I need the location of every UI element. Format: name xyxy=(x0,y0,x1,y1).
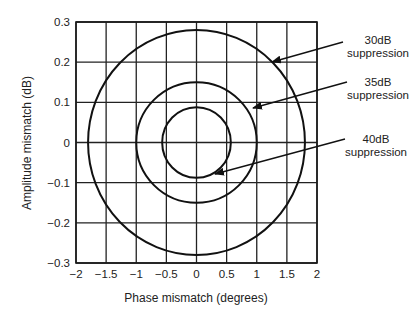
x-tick-label: −1.5 xyxy=(95,268,118,280)
x-tick-label: −0.5 xyxy=(155,268,178,280)
x-tick-labels: −2−1.5−1−0.500.511.52 xyxy=(69,268,320,280)
y-tick-label: −0.3 xyxy=(47,257,70,269)
annotation-40db-value: 40dB xyxy=(363,133,390,145)
x-tick-label: −1 xyxy=(130,268,143,280)
y-tick-label: 0 xyxy=(64,137,70,149)
y-tick-label: −0.1 xyxy=(47,177,70,189)
grid-lines xyxy=(76,22,317,263)
x-tick-label: 1.5 xyxy=(279,268,295,280)
x-axis-title: Phase mismatch (degrees) xyxy=(124,291,267,305)
x-tick-label: 2 xyxy=(314,268,320,280)
arrow-40db xyxy=(215,139,345,174)
chart: −2−1.5−1−0.500.511.52 0.30.20.10−0.1−0.2… xyxy=(0,0,419,325)
annotation-40db-label: suppression xyxy=(345,146,407,158)
x-tick-label: −2 xyxy=(69,268,82,280)
x-tick-label: 1 xyxy=(254,268,260,280)
y-tick-label: 0.1 xyxy=(54,96,70,108)
arrow-35db xyxy=(253,82,347,108)
y-axis-title: Amplitude mismatch (dB) xyxy=(20,76,34,210)
annotation-30db-label: suppression xyxy=(347,47,409,59)
arrow-30db xyxy=(272,42,343,62)
y-tick-labels: 0.30.20.10−0.1−0.2−0.3 xyxy=(47,16,70,269)
x-tick-label: 0.5 xyxy=(219,268,235,280)
x-tick-label: 0 xyxy=(193,268,199,280)
y-tick-label: −0.2 xyxy=(47,217,70,229)
annotation-35db: 35dB suppression xyxy=(347,76,409,101)
annotation-35db-label: suppression xyxy=(347,89,409,101)
annotation-40db: 40dB suppression xyxy=(345,133,407,158)
y-tick-label: 0.2 xyxy=(54,56,70,68)
annotation-30db-value: 30dB xyxy=(365,34,392,46)
y-tick-label: 0.3 xyxy=(54,16,70,28)
annotation-30db: 30dB suppression xyxy=(347,34,409,59)
annotation-35db-value: 35dB xyxy=(365,76,392,88)
